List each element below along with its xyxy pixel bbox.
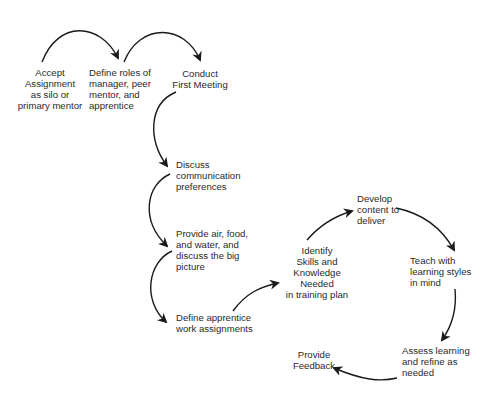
arrow-work-assignments-to-identify-skills (233, 283, 278, 311)
node-discuss-communication: Discuss communication preferences (176, 159, 256, 192)
arrow-teach-to-assess (442, 289, 455, 340)
node-define-work-assignments: Define apprentice work assignments (176, 312, 276, 334)
arrow-accept-to-define-roles (42, 31, 118, 62)
node-develop-content: Develop content to deliver (357, 193, 427, 226)
arrow-define-roles-to-first-meeting (124, 33, 200, 63)
arrow-identify-skills-to-develop-content (307, 211, 352, 240)
node-identify-skills: Identify Skills and Knowledge Needed in … (278, 245, 356, 300)
arrow-communication-to-air (149, 174, 170, 246)
node-teach: Teach with learning styles in mind (410, 255, 490, 288)
node-provide-feedback: Provide Feedback (284, 349, 344, 371)
arrow-air-to-work-assignments (151, 251, 172, 322)
node-accept-assignment: Accept Assignment as silo or primary men… (14, 67, 86, 111)
node-assess-learning: Assess learning and refine as needed (402, 345, 488, 378)
node-define-roles: Define roles of manager, peer mentor, an… (89, 67, 169, 111)
node-provide-air-food-water: Provide air, food, and water, and discus… (176, 228, 266, 272)
node-conduct-first-meeting: Conduct First Meeting (160, 68, 240, 90)
